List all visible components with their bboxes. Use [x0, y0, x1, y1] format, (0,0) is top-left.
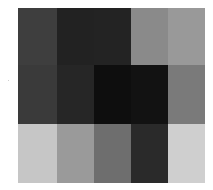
grid-cell-r1-c1 [18, 8, 57, 65]
grid-cell-r2-c1 [18, 65, 57, 124]
grid-cell-r1-c5 [168, 8, 205, 65]
grid-cell-r2-c2 [57, 65, 94, 124]
grid-cell-r1-c3 [94, 8, 131, 65]
grid-cell-r3-c1 [18, 124, 57, 183]
grid-cell-r1-c2 [57, 8, 94, 65]
grid-cell-r1-c4 [131, 8, 168, 65]
grid-cell-r3-c4 [131, 124, 168, 183]
grid-cell-r2-c3 [94, 65, 131, 124]
grid-cell-r2-c5 [168, 65, 205, 124]
grid-cell-r3-c5 [168, 124, 205, 183]
grayscale-grid [18, 8, 205, 183]
grid-cell-r3-c2 [57, 124, 94, 183]
grid-cell-r2-c4 [131, 65, 168, 124]
grid-cell-r3-c3 [94, 124, 131, 183]
artifact-speck [8, 80, 9, 81]
